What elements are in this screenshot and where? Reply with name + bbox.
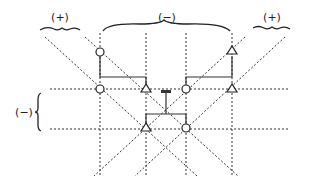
capacitor-symbol (161, 90, 171, 93)
diagonal-line-1 (45, 37, 197, 176)
label-left: (−) (15, 106, 33, 119)
brace-top-left (40, 28, 80, 30)
connector-right (186, 56, 232, 86)
triangle-marker (141, 84, 151, 92)
diagram-canvas: (+) (−) (+) (−) (0, 0, 309, 193)
triangle-marker (141, 123, 151, 131)
connector-bottom (146, 114, 186, 124)
brace-left (35, 93, 41, 131)
diagonal-line-4 (135, 37, 285, 176)
triangle-marker (227, 46, 237, 54)
label-top-right: (+) (263, 11, 281, 24)
label-top-middle: (−) (158, 11, 176, 24)
triangle-marker (227, 84, 237, 92)
connector-left (100, 56, 146, 85)
label-top-left: (+) (51, 11, 69, 24)
circle-marker (182, 124, 190, 132)
brace-top-right (253, 27, 290, 30)
circle-marker (182, 85, 190, 93)
circle-marker (96, 48, 104, 56)
diagonal-line-3 (94, 37, 245, 176)
circle-marker (96, 85, 104, 93)
diagonal-line-2 (85, 37, 238, 176)
